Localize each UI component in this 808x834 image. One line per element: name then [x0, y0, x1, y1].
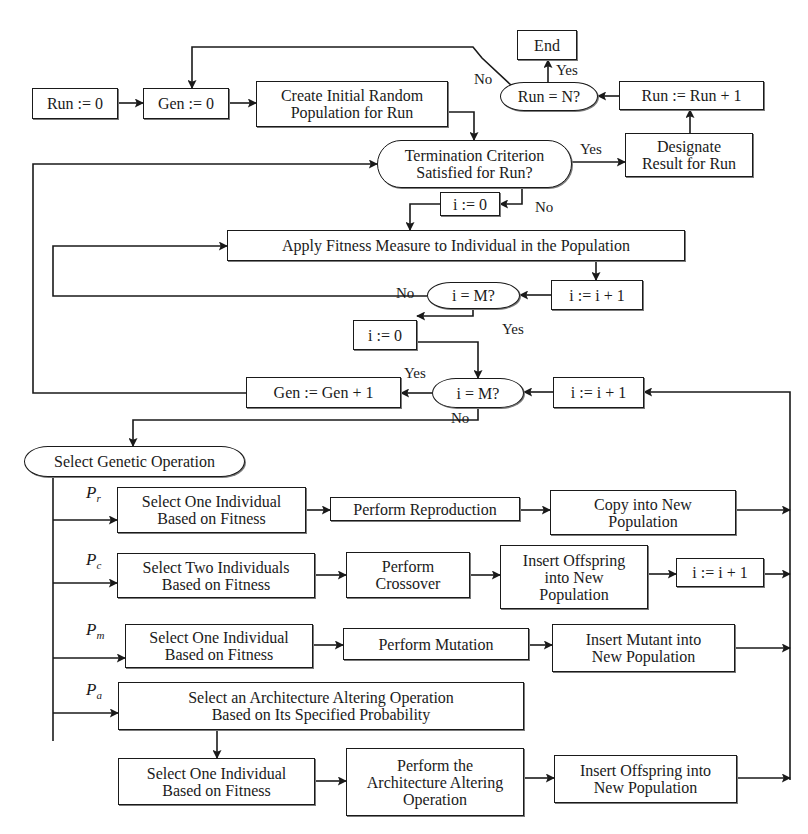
probability-subscript: a [96, 689, 102, 701]
process-node-gen-inc: Gen := Gen + 1 [246, 377, 401, 408]
connector-arrow [410, 204, 440, 230]
probability-label-pr: Pr [86, 483, 101, 504]
decision-node-select-op: Select Genetic Operation [24, 446, 245, 477]
process-node-run-inc: Run := Run + 1 [619, 81, 764, 110]
process-node-i0-b: i := 0 [353, 320, 417, 350]
decision-node-run-eq-n: Run = N? [500, 82, 598, 111]
process-node-a-insert: Insert Offspring into New Population [554, 755, 737, 803]
edge-label-yes: Yes [502, 322, 524, 337]
edge-label-yes: Yes [580, 142, 602, 157]
decision-node-i-eq-m-b: i = M? [432, 378, 524, 408]
process-node-m-insert: Insert Mutant into New Population [552, 624, 735, 672]
edge-label-yes: Yes [556, 63, 578, 78]
probability-subscript: c [96, 559, 101, 571]
process-node-c-perform: Perform Crossover [346, 552, 470, 598]
decision-node-i-eq-m-a: i = M? [427, 282, 520, 309]
probability-subscript: r [96, 492, 100, 504]
probability-symbol: P [86, 483, 96, 502]
process-node-a-select: Select One Individual Based on Fitness [118, 758, 315, 805]
process-node-i-inc-a: i := i + 1 [551, 280, 643, 310]
process-node-m-perform: Perform Mutation [343, 628, 529, 660]
process-node-run0: Run := 0 [32, 88, 118, 119]
connector-arrow [33, 164, 377, 393]
connector-arrow [133, 408, 478, 446]
probability-symbol: P [86, 680, 96, 699]
probability-label-pc: Pc [86, 550, 101, 571]
edge-label-no: No [535, 200, 553, 215]
process-node-gen0: Gen := 0 [143, 88, 229, 119]
edge-label-no: No [451, 411, 469, 426]
process-node-c-inc: i := i + 1 [676, 558, 764, 587]
process-node-r-copy: Copy into New Population [550, 490, 736, 535]
process-node-apply: Apply Fitness Measure to Individual in t… [227, 230, 685, 261]
process-node-designate: Designate Result for Run [625, 133, 753, 177]
connector-arrow [417, 342, 478, 378]
connector-arrow [500, 188, 522, 204]
probability-label-pa: Pa [86, 680, 102, 701]
process-node-r-select: Select One Individual Based on Fitness [117, 487, 306, 533]
process-node-c-insert: Insert Offspring into New Population [500, 545, 648, 609]
process-node-end: End [517, 30, 577, 60]
process-node-a-select-op: Select an Architecture Altering Operatio… [118, 682, 524, 730]
edge-label-no: No [396, 286, 414, 301]
process-node-create: Create Initial Random Population for Run [256, 81, 448, 127]
process-node-i-inc-b: i := i + 1 [553, 377, 644, 408]
process-node-a-perform: Perform the Architecture Altering Operat… [346, 748, 524, 816]
probability-symbol: P [86, 550, 96, 569]
probability-subscript: m [96, 629, 104, 641]
process-node-i0-a: i := 0 [440, 192, 500, 216]
edge-label-yes: Yes [404, 366, 426, 381]
probability-symbol: P [86, 620, 96, 639]
probability-label-pm: Pm [86, 620, 104, 641]
process-node-c-select: Select Two Individuals Based on Fitness [117, 553, 315, 598]
process-node-m-select: Select One Individual Based on Fitness [125, 624, 313, 668]
connector-arrow [417, 309, 473, 316]
connector-arrow [448, 112, 474, 140]
decision-node-term: Termination Criterion Satisfied for Run? [377, 140, 572, 188]
process-node-r-perform: Perform Reproduction [330, 497, 520, 521]
edge-label-no: No [474, 72, 492, 87]
